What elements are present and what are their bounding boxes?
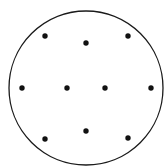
data-point — [102, 85, 107, 90]
data-point — [83, 128, 88, 133]
data-point — [125, 135, 130, 140]
data-point — [42, 33, 47, 38]
data-point — [83, 40, 88, 45]
data-point — [19, 85, 24, 90]
data-point — [64, 85, 69, 90]
scatter-diagram — [0, 0, 167, 168]
data-point — [125, 33, 130, 38]
figure-background — [0, 0, 167, 168]
data-point — [42, 136, 47, 141]
data-point — [148, 85, 153, 90]
figure-container — [0, 0, 167, 168]
